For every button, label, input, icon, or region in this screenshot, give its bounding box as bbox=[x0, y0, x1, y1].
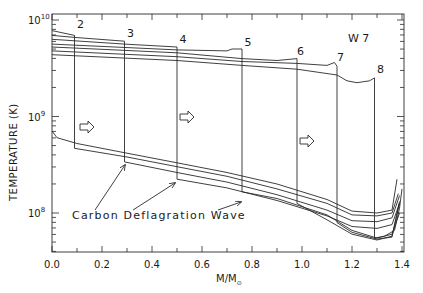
y-axis-label: TEMPERATURE (K) bbox=[8, 103, 19, 202]
x-tick-label: 0.2 bbox=[94, 259, 110, 270]
x-tick-label: 0.4 bbox=[144, 259, 160, 270]
propagation-arrow-icon bbox=[180, 111, 194, 123]
temperature-curve-2 bbox=[52, 31, 398, 216]
curve-label-7: 7 bbox=[337, 51, 344, 64]
temperature-profile-chart: 0.00.20.40.60.81.01.21.41081091010 23456… bbox=[0, 0, 423, 293]
x-axis-label-main: M/M bbox=[216, 273, 237, 284]
x-tick-label: 0.0 bbox=[44, 259, 60, 270]
y-tick-label: 109 bbox=[28, 110, 45, 123]
x-tick-label: 1.0 bbox=[294, 259, 310, 270]
x-axis-label-subscript: ⊙ bbox=[237, 279, 242, 286]
chart-title: W 7 bbox=[348, 32, 369, 45]
x-tick-label: 0.6 bbox=[194, 259, 210, 270]
curve-label-2: 2 bbox=[77, 18, 84, 31]
deflagration-annotation: Carbon Deflagration Wave bbox=[72, 165, 246, 222]
temperature-curve-4 bbox=[52, 39, 400, 228]
propagation-arrow-icon bbox=[80, 121, 94, 133]
y-tick-label: 108 bbox=[28, 206, 45, 219]
annotation-leader-arrow bbox=[95, 165, 125, 210]
annotation-leader-arrow bbox=[133, 183, 175, 210]
x-axis-label: M/M⊙ bbox=[216, 273, 242, 286]
annotation-text: Carbon Deflagration Wave bbox=[72, 209, 246, 222]
y-tick-label: 1010 bbox=[28, 13, 50, 26]
temperature-curve-3 bbox=[52, 35, 400, 221]
propagation-arrow-icon bbox=[300, 135, 314, 147]
x-tick-label: 1.2 bbox=[344, 259, 360, 270]
curve-number-labels: 2345678 bbox=[77, 18, 384, 76]
propagation-arrows bbox=[80, 111, 314, 147]
temperature-curve-1 bbox=[52, 131, 397, 213]
curve-label-3: 3 bbox=[127, 27, 134, 40]
curve-label-8: 8 bbox=[377, 63, 384, 76]
x-tick-label: 1.4 bbox=[394, 259, 410, 270]
curve-label-6: 6 bbox=[297, 45, 304, 58]
curve-label-4: 4 bbox=[180, 33, 187, 46]
axis-tick-labels: 0.00.20.40.60.81.01.21.41081091010 bbox=[28, 13, 410, 270]
x-tick-label: 0.8 bbox=[244, 259, 260, 270]
curve-label-5: 5 bbox=[245, 36, 252, 49]
